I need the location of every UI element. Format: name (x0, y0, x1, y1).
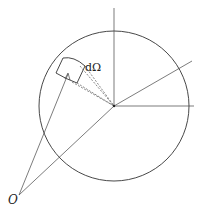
solid-angle-label: dΩ (85, 61, 101, 74)
volume-element (56, 58, 85, 83)
origin-to-center-line (19, 106, 114, 195)
origin-to-element-arrow (19, 74, 68, 195)
cone-line-bottom (77, 83, 114, 106)
center-point (113, 105, 115, 107)
origin-label: O (8, 193, 18, 207)
x-axis (114, 61, 192, 106)
diagram-canvas (0, 0, 203, 218)
